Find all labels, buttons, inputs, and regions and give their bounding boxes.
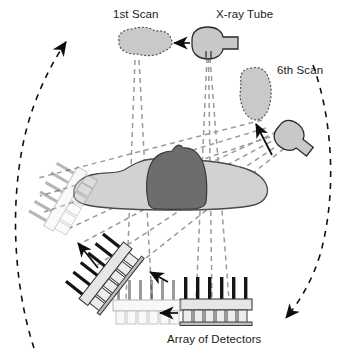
diagram-canvas: 1st Scan X-ray Tube 6th Scan Array of De… (0, 0, 347, 354)
label-xray-tube: X-ray Tube (216, 8, 273, 20)
ct-scanner-diagram: 1st Scan X-ray Tube 6th Scan Array of De… (0, 0, 347, 354)
label-first-scan: 1st Scan (113, 8, 159, 20)
first-scan-blob (119, 27, 173, 55)
detector-upper-bank-faded (113, 300, 181, 311)
detector-upper-bank (180, 299, 252, 310)
scan-blob-1 (119, 27, 173, 55)
label-sixth-scan: 6th Scan (277, 64, 323, 76)
label-array-of-detectors: Array of Detectors (167, 333, 262, 345)
detector-base (180, 322, 252, 326)
